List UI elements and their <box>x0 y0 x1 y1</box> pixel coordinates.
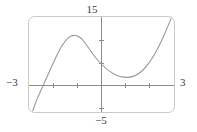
x-min-label: −3 <box>6 77 18 88</box>
x-max-label: 3 <box>180 77 186 88</box>
y-max-label: 15 <box>87 4 98 15</box>
y-min-label: −5 <box>95 115 107 126</box>
graph-figure: 15 −5 −3 3 <box>0 0 197 132</box>
plot-canvas <box>0 0 197 132</box>
